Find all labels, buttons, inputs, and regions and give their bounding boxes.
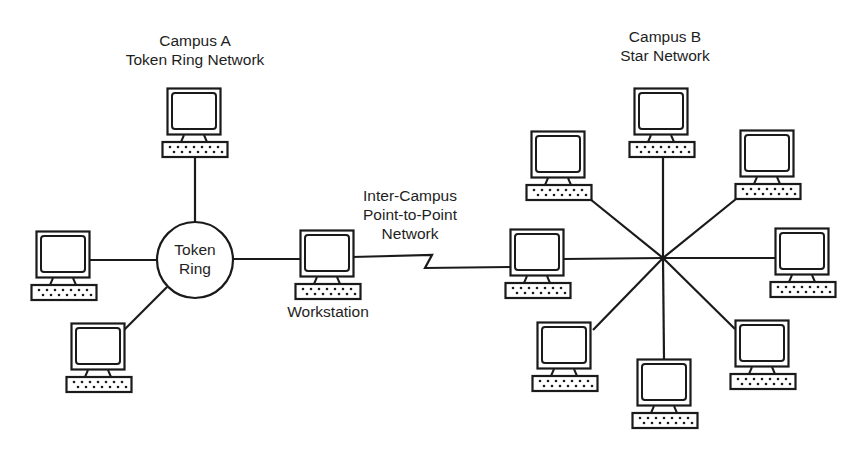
campus-b-title: Campus B Star Network xyxy=(590,27,740,65)
computer-icon-b-bottom xyxy=(633,360,698,429)
computer-icon-a-bottom-left xyxy=(67,324,132,393)
link-label-line1: Inter-Campus xyxy=(350,186,470,205)
link-label-line2: Point-to-Point xyxy=(350,205,470,224)
computer-icon-b-right xyxy=(771,229,836,298)
workstation-label: Workstation xyxy=(268,302,388,321)
computer-icon-b-lower-right xyxy=(731,321,796,390)
computer-icon-b-lower-left xyxy=(533,323,598,392)
token-ring-label: Token Ring xyxy=(160,240,230,278)
star-hub-icon xyxy=(660,255,665,260)
computer-icon-b-left xyxy=(506,230,571,299)
computer-icon-b-top xyxy=(630,89,695,158)
campus-a-title: Campus A Token Ring Network xyxy=(95,31,295,69)
computer-icon-a-left xyxy=(32,232,97,301)
token-ring-label-line2: Ring xyxy=(160,259,230,278)
link-label: Inter-Campus Point-to-Point Network xyxy=(350,186,470,243)
campus-a-title-line1: Campus A xyxy=(95,31,295,50)
computer-icon-a-top xyxy=(163,89,228,158)
campus-b-title-line2: Star Network xyxy=(590,46,740,65)
campus-b-title-line1: Campus B xyxy=(590,27,740,46)
campus-a-title-line2: Token Ring Network xyxy=(95,50,295,69)
link-label-line3: Network xyxy=(350,224,470,243)
token-ring-label-line1: Token xyxy=(160,240,230,259)
computer-icon-b-upper-right xyxy=(736,131,801,200)
point-to-point-link xyxy=(352,255,510,268)
computer-icon-b-upper-left xyxy=(527,132,592,201)
